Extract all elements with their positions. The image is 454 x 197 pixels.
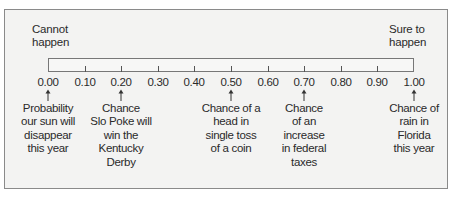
annotation-line: this year: [6, 142, 90, 155]
annotation-line: Probability: [6, 102, 90, 115]
annotation-line: Kentucky: [79, 142, 163, 155]
tick-label: 0.90: [357, 76, 397, 88]
end-label-line: Cannot: [32, 23, 69, 36]
up-arrow-icon: [226, 89, 236, 101]
scale-tick: [158, 66, 159, 72]
scale-tick: [121, 66, 122, 72]
end-label-line: happen: [32, 36, 69, 49]
cannot-happen-label: Cannot happen: [32, 23, 69, 49]
annotation-line: our sun will: [6, 115, 90, 128]
up-arrow-icon: [299, 89, 309, 101]
scale-tick: [85, 66, 86, 72]
annotation-note: Probabilityour sun willdisappearthis yea…: [6, 102, 90, 156]
annotation-line: Derby: [79, 156, 163, 169]
tick-label: 0.10: [65, 76, 105, 88]
annotation-line: Florida: [372, 129, 454, 142]
tick-label: 0.80: [321, 76, 361, 88]
scale-tick: [341, 66, 342, 72]
annotation-note: Chanceof anincreasein federaltaxes: [262, 102, 346, 169]
annotation-line: Chance of: [372, 102, 454, 115]
end-label-line: happen: [389, 36, 426, 49]
annotation-line: taxes: [262, 156, 346, 169]
scale-tick: [304, 66, 305, 72]
scale-tick: [268, 66, 269, 72]
annotation-line: head in: [189, 115, 273, 128]
annotation-note: ChanceSlo Poke willwin theKentuckyDerby: [79, 102, 163, 169]
tick-label: 0.30: [138, 76, 178, 88]
tick-label: 0.60: [248, 76, 288, 88]
up-arrow-icon: [116, 89, 126, 101]
up-arrow-icon: [43, 89, 53, 101]
tick-label: 1.00: [394, 76, 434, 88]
annotation-line: of a coin: [189, 142, 273, 155]
annotation-line: Chance: [262, 102, 346, 115]
scale-tick: [231, 66, 232, 72]
end-label-line: Sure to: [389, 23, 426, 36]
annotation-line: Chance of a: [189, 102, 273, 115]
annotation-line: single toss: [189, 129, 273, 142]
sure-to-happen-label: Sure to happen: [389, 23, 426, 49]
tick-label: 0.00: [28, 76, 68, 88]
annotation-line: Slo Poke will: [79, 115, 163, 128]
annotation-line: disappear: [6, 129, 90, 142]
annotation-note: Chance ofrain inFloridathis year: [372, 102, 454, 156]
annotation-note: Chance of ahead insingle tossof a coin: [189, 102, 273, 156]
tick-label: 0.20: [101, 76, 141, 88]
annotation-line: this year: [372, 142, 454, 155]
annotation-line: rain in: [372, 115, 454, 128]
tick-label: 0.40: [174, 76, 214, 88]
scale-tick: [377, 66, 378, 72]
tick-label: 0.50: [211, 76, 251, 88]
annotation-line: in federal: [262, 142, 346, 155]
annotation-line: win the: [79, 129, 163, 142]
tick-label: 0.70: [284, 76, 324, 88]
scale-tick: [194, 66, 195, 72]
annotation-line: increase: [262, 129, 346, 142]
annotation-line: Chance: [79, 102, 163, 115]
up-arrow-icon: [409, 89, 419, 101]
annotation-line: of an: [262, 115, 346, 128]
